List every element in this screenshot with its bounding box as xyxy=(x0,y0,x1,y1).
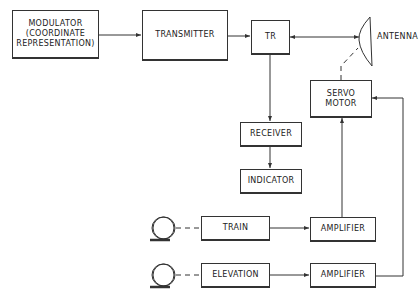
elevation-block: ELEVATION xyxy=(201,263,270,288)
transmitter-block: TRANSMITTER xyxy=(142,10,228,61)
train-amplifier-block: AMPLIFIER xyxy=(310,217,376,242)
indicator-block: INDICATOR xyxy=(240,169,302,194)
modulator-block: MODULATOR (COORDINATE REPRESENTATION) xyxy=(12,10,99,59)
servo-motor-block: SERVO MOTOR xyxy=(310,80,372,118)
tr-block: TR xyxy=(251,20,290,55)
antenna-label: ANTENNA xyxy=(377,32,418,41)
receiver-block: RECEIVER xyxy=(240,122,302,147)
elevation-amplifier-block: AMPLIFIER xyxy=(310,263,376,288)
train-block: TRAIN xyxy=(201,216,270,241)
